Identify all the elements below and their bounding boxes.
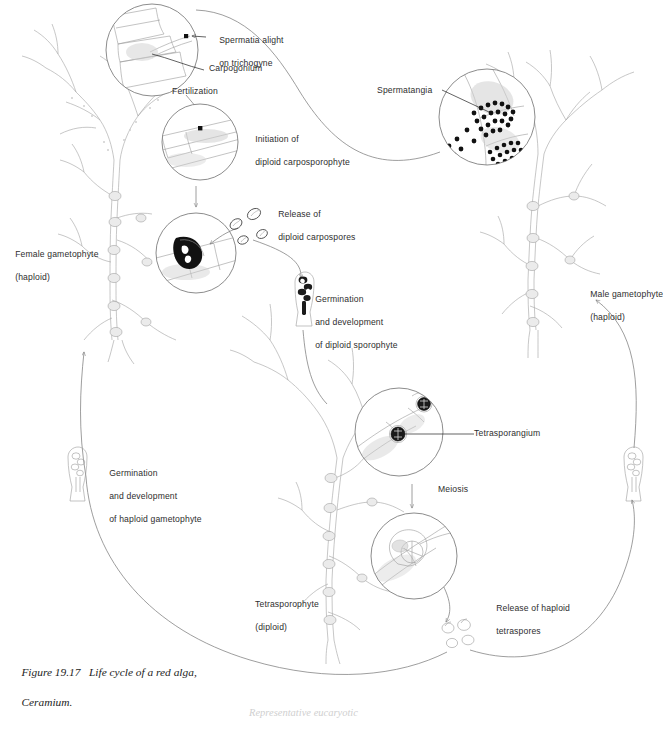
tetrasporangium-detail-circle (354, 387, 474, 479)
label-carpogonium: Carpogonium (209, 63, 262, 74)
label-tetrasporangium: Tetrasporangium (474, 428, 540, 439)
tetrasporophyte-nodes (323, 473, 377, 624)
label-meiosis: Meiosis (438, 484, 468, 495)
label-fertilization: Fertilization (172, 86, 218, 97)
label-tetrasporophyte: Tetrasporophyte (diploid) (245, 588, 319, 645)
label-release-carpospores: Release of diploid carpospores (268, 198, 356, 255)
haploid-sporeling-icon-left (68, 447, 87, 501)
figure-caption: Figure 19.17 Life cycle of a red alga, C… (10, 650, 197, 725)
fertilization-detail-circle (104, 4, 206, 98)
label-female-gametophyte: Female gametophyte (haploid) (5, 238, 99, 295)
tetraspore-release-detail-circle (370, 512, 474, 648)
label-release-tetraspores: Release of haploid tetraspores (486, 592, 570, 649)
male-thallus-nodes (526, 192, 579, 327)
carposporophyte-detail-circle (160, 102, 244, 182)
haploid-sporeling-icon-right (624, 447, 643, 501)
spermatangia-detail-circle (438, 68, 538, 168)
haploid-tetraspores (442, 619, 474, 648)
label-initiation-carposporophyte: Initiation of diploid carposporophyte (245, 123, 350, 180)
thallus-stipple (71, 97, 159, 151)
label-germination-haploid: Germination and development of haploid g… (99, 457, 202, 537)
label-male-gametophyte: Male gametophyte (haploid) (580, 278, 663, 335)
diploid-carpospores (228, 206, 269, 245)
label-germination-diploid: Germination and development of diploid s… (305, 283, 398, 363)
carpospore-release-detail-circle (154, 206, 269, 295)
page-footer-text: Representative eucaryotic (249, 707, 358, 718)
label-spermatangia: Spermatangia (377, 85, 432, 96)
